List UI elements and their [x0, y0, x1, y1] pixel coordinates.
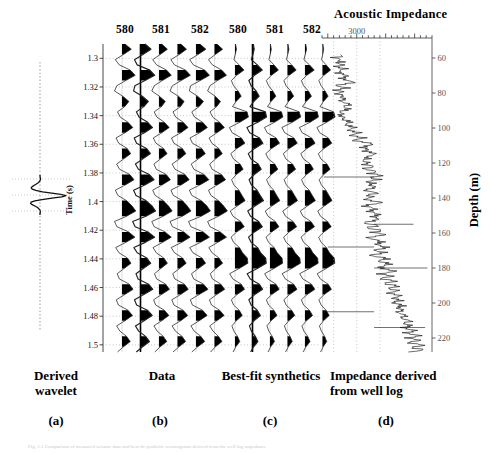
time-axis-label: Time (s): [64, 185, 74, 215]
synthetic-trace-fill-582b-5: [323, 164, 331, 174]
data-trace-wiggle-582b: [208, 44, 228, 352]
synthetic-trace-fill-582a-9: [270, 284, 279, 294]
synthetic-trace-fill-582b-9: [323, 284, 332, 294]
synthetic-trace-fill-582a-10: [270, 310, 277, 320]
depth-axis-label: Depth (m): [467, 173, 481, 228]
depth-tick-label-60: 60: [438, 53, 447, 63]
time-tick-label-1.44: 1.44: [83, 254, 99, 264]
depth-tick-label-180: 180: [438, 263, 451, 273]
caption-a: Derived wavelet: [8, 368, 104, 398]
synthetic-trace-fill-582b-4: [323, 138, 332, 148]
depth-tick-label-160: 160: [438, 228, 451, 238]
caption-d: Impedance derived from well log: [330, 368, 480, 398]
time-tick-label-1.48: 1.48: [83, 311, 98, 321]
time-tick-label-1.42: 1.42: [83, 225, 98, 235]
caption-a-line1: Derived: [8, 368, 104, 383]
data-trace-fill-580a-2: [122, 96, 129, 106]
synthetic-trace-fill-580a-7: [235, 221, 244, 231]
time-tick-label-1.5: 1.5: [87, 340, 98, 350]
caption-d-line1: Impedance derived: [330, 368, 480, 383]
data-trace-fill-582b-4: [215, 148, 223, 158]
panel-letter-c: (c): [232, 413, 308, 428]
depth-tick-label-120: 120: [438, 158, 451, 168]
synthetic-trace-fill-582a-4: [270, 138, 280, 148]
data-trace-wiggle-582a: [152, 44, 172, 352]
depth-tick-label-100: 100: [438, 123, 451, 133]
trace-header-b-580: 580: [116, 23, 134, 35]
trace-header-c-580: 580: [229, 23, 247, 35]
synthetic-trace-fill-582b-1: [323, 65, 331, 75]
trace-header-b-581: 581: [152, 23, 170, 35]
synthetic-trace-fill-581b-3: [305, 112, 318, 122]
seismic-well-tie-figure: 580 581 582 580 581 582 Acoustic Impedan…: [0, 0, 491, 453]
synthetic-trace-fill-582a-1: [270, 65, 278, 75]
impedance-curve: [330, 55, 425, 353]
time-tick-label-1.46: 1.46: [83, 283, 98, 293]
depth-tick-label-200: 200: [438, 298, 451, 308]
caption-c: Best-fit synthetics: [196, 368, 346, 383]
trace-header-b-582: 582: [191, 23, 209, 35]
figure-bottom-caption: Fig. 1.1 Comparison of measured seismic …: [28, 444, 478, 449]
data-trace-fill-582b-11: [215, 336, 223, 346]
impedance-tick-label-3000: 3000: [348, 26, 365, 36]
panel-letter-b: (b): [122, 413, 198, 428]
time-tick-label-1.34: 1.34: [83, 111, 99, 121]
depth-tick-label-220: 220: [438, 333, 451, 343]
depth-tick-label-140: 140: [438, 193, 451, 203]
data-trace-fill-582a-11: [159, 336, 167, 346]
trace-header-c-582: 582: [303, 23, 321, 35]
panel-letter-a: (a): [18, 413, 94, 428]
depth-tick-label-80: 80: [438, 88, 447, 98]
data-trace-wiggle-580b: [170, 44, 191, 352]
synthetic-trace-fill-582b-7: [323, 221, 332, 231]
trace-header-c-581: 581: [266, 23, 284, 35]
time-tick-label-1.36: 1.36: [83, 139, 98, 149]
caption-c-line1: Best-fit synthetics: [196, 368, 346, 383]
time-tick-label-1.38: 1.38: [83, 168, 98, 178]
figure-plot-area: 1.31.321.341.361.381.41.421.441.461.481.…: [0, 0, 491, 360]
time-tick-label-1.4: 1.4: [87, 197, 98, 207]
acoustic-impedance-title: Acoustic Impedance: [334, 7, 447, 22]
data-trace-wiggle-580a: [115, 44, 136, 352]
caption-d-line2: from well log: [330, 383, 480, 398]
panel-letter-d: (d): [348, 413, 424, 428]
synthetic-trace-fill-580a-5: [235, 164, 243, 174]
synthetic-trace-fill-580b-5: [288, 164, 296, 174]
caption-a-line2: wavelet: [8, 383, 104, 398]
data-trace-wiggle-581b: [189, 44, 211, 352]
time-tick-label-1.3: 1.3: [87, 53, 98, 63]
data-trace-fill-580b-2: [178, 96, 185, 106]
time-tick-label-1.32: 1.32: [83, 82, 98, 92]
